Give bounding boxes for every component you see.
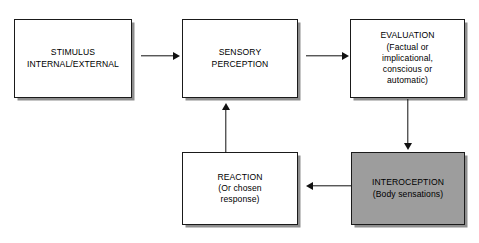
arrow-evaluation-to-interoception (401, 99, 415, 150)
arrowhead-left-icon (306, 182, 313, 190)
node-stimulus: STIMULUS INTERNAL/EXTERNAL (14, 19, 132, 98)
arrowhead-right-icon (173, 52, 180, 60)
node-interoception: INTEROCEPTION (Body sensations) (351, 152, 465, 225)
node-evaluation: EVALUATION (Factual or implicational, co… (350, 19, 465, 98)
arrow-shaft (141, 55, 174, 56)
arrow-stimulus-to-sensory (141, 49, 180, 63)
arrowhead-right-icon (342, 52, 349, 60)
node-interoception-label: INTEROCEPTION (Body sensations) (369, 177, 447, 199)
flowchart-canvas: STIMULUS INTERNAL/EXTERNAL SENSORY PERCE… (0, 0, 479, 243)
node-stimulus-label: STIMULUS INTERNAL/EXTERNAL (24, 47, 122, 69)
arrow-shaft (225, 109, 226, 153)
arrow-shaft (306, 55, 343, 56)
arrow-reaction-to-sensory (219, 103, 233, 153)
node-reaction: REACTION (Or chosen response) (182, 152, 298, 225)
node-reaction-label: REACTION (Or chosen response) (214, 172, 265, 206)
node-evaluation-label: EVALUATION (Factual or implicational, co… (377, 30, 437, 86)
arrowhead-up-icon (222, 103, 230, 110)
node-sensory-perception-label: SENSORY PERCEPTION (209, 47, 272, 69)
arrow-sensory-to-evaluation (306, 49, 349, 63)
arrow-shaft (407, 99, 408, 144)
arrow-interoception-to-reaction (306, 179, 351, 193)
arrow-shaft (312, 185, 351, 186)
arrowhead-down-icon (404, 143, 412, 150)
node-sensory-perception: SENSORY PERCEPTION (182, 19, 298, 98)
